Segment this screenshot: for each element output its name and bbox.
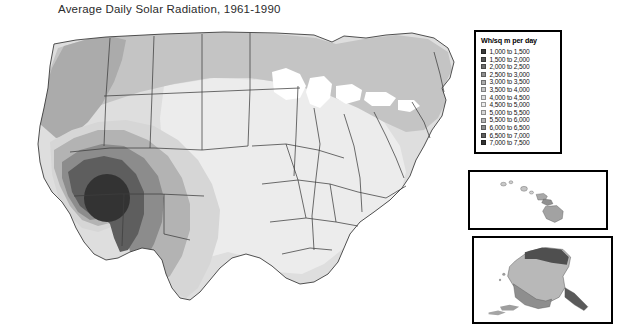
legend-entry: 6,500 to 7,000 [481,132,556,140]
legend-entry: 3,500 to 4,000 [481,86,556,94]
legend-entry: 6,000 to 6,500 [481,124,556,132]
legend-swatch [481,64,486,69]
legend-label: 5,000 to 5,500 [490,109,530,117]
legend-swatch [481,87,486,92]
legend-entry: 4,000 to 4,500 [481,94,556,102]
legend-label: 3,500 to 4,000 [490,86,530,94]
legend-label: 4,500 to 5,000 [490,101,530,109]
legend-entry: 2,500 to 3,000 [481,71,556,79]
legend-label: 6,000 to 6,500 [490,124,530,132]
legend-entry: 5,000 to 5,500 [481,109,556,117]
legend-swatch [481,118,486,123]
legend-label: 6,500 to 7,000 [490,132,530,140]
legend-label: 2,500 to 3,000 [490,71,530,79]
legend-entry: 5,500 to 6,000 [481,116,556,124]
legend-swatch [481,140,486,145]
hawaii-islands [501,181,564,223]
legend-entry: 3,000 to 3,500 [481,78,556,86]
legend-entry: 4,500 to 5,000 [481,101,556,109]
legend-swatch [481,95,486,100]
legend-label: 1,000 to 1,500 [490,48,530,56]
legend-swatch [481,72,486,77]
legend-swatch [481,49,486,54]
legend-entry: 1,500 to 2,000 [481,56,556,64]
legend-entry: 1,000 to 1,500 [481,48,556,56]
page-title: Average Daily Solar Radiation, 1961-1990 [58,3,281,15]
legend-entry-list: 1,000 to 1,5001,500 to 2,0002,000 to 2,5… [481,48,556,147]
legend-swatch [481,80,486,85]
legend-swatch [481,133,486,138]
legend-swatch [481,125,486,130]
legend-entry: 2,000 to 2,500 [481,63,556,71]
legend: Wh/sq m per day 1,000 to 1,5001,500 to 2… [474,30,562,154]
legend-label: 2,000 to 2,500 [490,63,530,71]
solar-radiation-map-figure: Average Daily Solar Radiation, 1961-1990 [0,0,620,333]
legend-label: 4,000 to 4,500 [490,94,530,102]
legend-label: 7,000 to 7,500 [490,139,530,147]
legend-label: 3,000 to 3,500 [490,78,530,86]
legend-swatch [481,102,486,107]
hawaii-inset-map [468,170,608,230]
main-map-contiguous-us [14,26,466,326]
legend-label: 1,500 to 2,000 [490,56,530,64]
legend-entry: 7,000 to 7,500 [481,139,556,147]
alaska-landmass [489,248,588,316]
legend-title: Wh/sq m per day [481,36,556,45]
legend-swatch [481,57,486,62]
legend-label: 5,500 to 6,000 [490,116,530,124]
map-shaded-bands [14,26,466,326]
legend-swatch [481,110,486,115]
alaska-inset-map [472,236,613,324]
